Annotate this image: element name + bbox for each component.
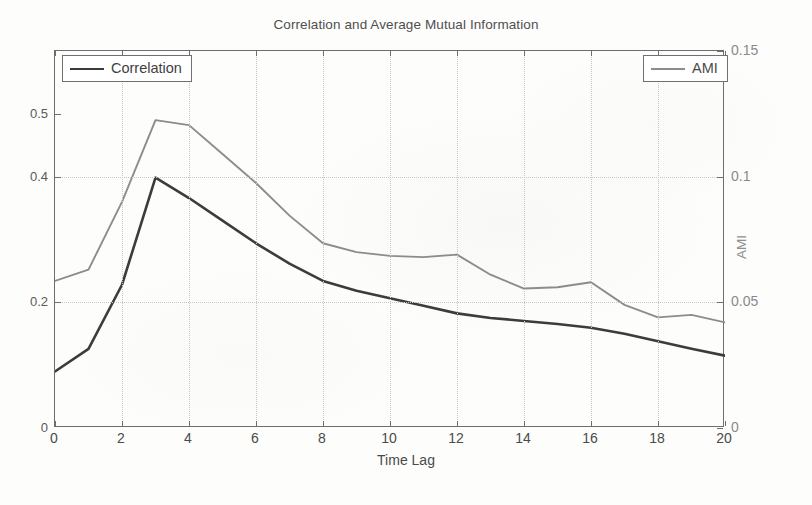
x-axis-tick xyxy=(591,51,592,56)
y-axis-right-tick xyxy=(717,302,723,303)
y-axis-right-tick-label: 0.1 xyxy=(731,168,750,184)
legend-line-icon-ami xyxy=(651,68,685,70)
y-axis-title-right: AMI xyxy=(734,235,749,259)
x-axis-tick xyxy=(323,421,324,426)
x-axis-tick xyxy=(524,421,525,426)
y-axis-right-tick xyxy=(717,428,723,429)
x-axis-tick xyxy=(55,51,56,56)
x-axis-tick xyxy=(725,421,726,426)
y-axis-left-tick-label: 0.4 xyxy=(18,168,48,183)
x-axis-tick-label: 18 xyxy=(649,430,665,446)
x-axis-tick xyxy=(457,421,458,426)
x-axis-tick xyxy=(323,51,324,56)
y-axis-left-tick xyxy=(55,177,61,178)
legend-label-correlation: Correlation xyxy=(111,61,182,76)
legend-label-ami: AMI xyxy=(692,61,718,76)
y-axis-left-tick xyxy=(55,302,61,303)
x-axis-title: Time Lag xyxy=(0,452,812,468)
x-axis-tick-label: 14 xyxy=(515,430,531,446)
y-axis-right-tick xyxy=(717,51,723,52)
chart-figure: Correlation and Average Mutual Informati… xyxy=(0,0,812,505)
y-axis-left-tick-label: 0.2 xyxy=(18,294,48,309)
gridline-vertical xyxy=(323,51,324,426)
y-axis-right-tick-label: 0.05 xyxy=(731,293,758,309)
legend-line-icon-correlation xyxy=(70,68,104,70)
x-axis-tick-label: 4 xyxy=(184,430,192,446)
gridline-vertical xyxy=(658,51,659,426)
x-axis-tick xyxy=(256,421,257,426)
gridline-vertical xyxy=(390,51,391,426)
x-axis-tick-label: 12 xyxy=(448,430,464,446)
x-axis-tick-label: 20 xyxy=(716,430,732,446)
x-axis-tick-label: 0 xyxy=(50,430,58,446)
x-axis-tick xyxy=(55,421,56,426)
plot-area xyxy=(54,50,724,427)
y-axis-right-tick xyxy=(717,177,723,178)
x-axis-tick xyxy=(189,421,190,426)
x-axis-tick xyxy=(122,421,123,426)
page-title: Correlation and Average Mutual Informati… xyxy=(0,17,812,32)
x-axis-tick xyxy=(591,421,592,426)
gridline-vertical xyxy=(189,51,190,426)
x-axis-tick-label: 8 xyxy=(318,430,326,446)
x-axis-tick xyxy=(390,421,391,426)
y-axis-left-origin-label: 0 xyxy=(18,420,48,435)
x-axis-tick xyxy=(658,421,659,426)
x-axis-tick xyxy=(390,51,391,56)
legend-ami[interactable]: AMI xyxy=(643,55,728,82)
gridline-vertical xyxy=(524,51,525,426)
x-axis-tick-label: 2 xyxy=(117,430,125,446)
y-axis-right-tick-label: 0.15 xyxy=(731,42,758,58)
x-axis-tick xyxy=(256,51,257,56)
gridline-vertical xyxy=(591,51,592,426)
x-axis-tick-label: 10 xyxy=(381,430,397,446)
gridline-horizontal xyxy=(55,177,723,178)
x-axis-tick xyxy=(457,51,458,56)
gridline-vertical xyxy=(256,51,257,426)
y-axis-right-tick-label: 0 xyxy=(731,419,739,435)
y-axis-left-tick-label: 0.5 xyxy=(18,105,48,120)
gridline-vertical xyxy=(122,51,123,426)
x-axis-tick-label: 6 xyxy=(251,430,259,446)
x-axis-tick xyxy=(524,51,525,56)
gridline-vertical xyxy=(457,51,458,426)
x-axis-tick-label: 16 xyxy=(582,430,598,446)
y-axis-left-tick xyxy=(55,114,61,115)
gridline-horizontal xyxy=(55,302,723,303)
legend-correlation[interactable]: Correlation xyxy=(62,55,192,82)
